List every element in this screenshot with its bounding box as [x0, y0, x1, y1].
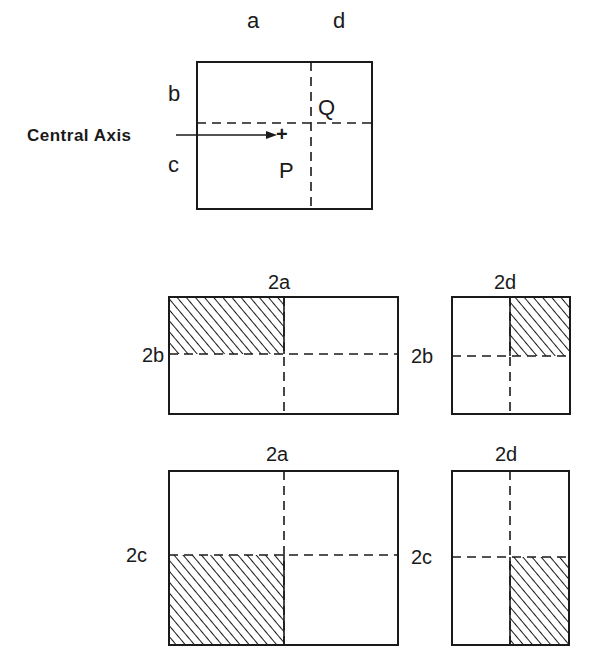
central-axis-plus-icon: + — [276, 124, 288, 144]
sub-2a-2b-side-label: 2b — [142, 345, 164, 365]
central-axis-label: Central Axis — [27, 127, 132, 144]
diagram-canvas — [0, 0, 592, 666]
hatched-region — [510, 557, 569, 645]
sub-2a-2c-side-label: 2c — [126, 545, 147, 565]
sub-2d-2b-side-label: 2b — [411, 346, 433, 366]
label-b: b — [168, 83, 180, 105]
sub-diagram-2d-2b — [452, 297, 570, 414]
sub-diagram-2d-2c — [452, 471, 569, 645]
hatched-region — [510, 297, 570, 356]
label-P: P — [279, 160, 294, 182]
sub-2d-2c-side-label: 2c — [411, 547, 432, 567]
sub-2d-2b-top-label: 2d — [494, 272, 516, 292]
label-c: c — [168, 154, 179, 176]
sub-diagram-2a-2b — [169, 297, 398, 414]
sub-diagram-2a-2c — [169, 471, 398, 645]
sub-2d-2c-top-label: 2d — [495, 444, 517, 464]
top-field-diagram — [176, 62, 372, 209]
hatched-region — [169, 297, 284, 354]
label-Q: Q — [318, 97, 335, 119]
sub-2a-2c-top-label: 2a — [266, 444, 288, 464]
label-a: a — [247, 10, 259, 32]
sub-2a-2b-top-label: 2a — [268, 272, 290, 292]
hatched-region — [169, 555, 284, 645]
label-d: d — [333, 10, 345, 32]
